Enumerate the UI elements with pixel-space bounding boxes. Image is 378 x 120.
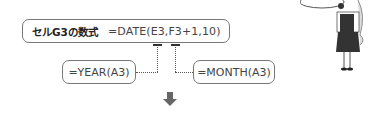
date-formula: =DATE(E3,F3+1,10) xyxy=(108,25,221,38)
year-connector-horizontal xyxy=(136,72,158,73)
down-arrow-icon xyxy=(163,92,177,106)
month-formula-box: =MONTH(A3) xyxy=(193,60,275,84)
month-connector-horizontal xyxy=(175,72,193,73)
formula-label: セルG3の数式 xyxy=(32,24,98,39)
month-connector-vertical xyxy=(175,47,176,72)
cell-formula-box: セルG3の数式 =DATE(E3,F3+1,10) xyxy=(22,19,230,43)
e3-underline xyxy=(153,44,162,46)
character-illustration xyxy=(300,0,372,75)
year-formula: =YEAR(A3) xyxy=(68,66,129,79)
year-formula-box: =YEAR(A3) xyxy=(62,60,136,84)
month-formula: =MONTH(A3) xyxy=(197,66,271,79)
f3-underline xyxy=(171,44,180,46)
year-connector-vertical xyxy=(157,47,158,72)
